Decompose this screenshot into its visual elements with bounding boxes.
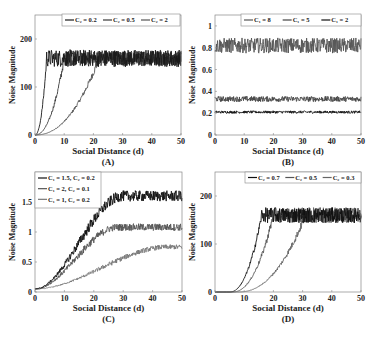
x-axis-label: Social Distance (d) — [252, 146, 324, 156]
x-tick-label: 10 — [240, 137, 248, 146]
legend-entry: C₁ = 1, C₂ = 0.2 — [48, 196, 90, 203]
x-tick-label: 20 — [269, 294, 277, 303]
y-axis-label: Noise Magnitude — [188, 46, 197, 104]
x-tick-label: 50 — [357, 137, 365, 146]
x-tick-label: 40 — [328, 294, 336, 303]
panel-label: (D) — [282, 314, 295, 324]
y-tick-label: 0.6 — [202, 66, 212, 75]
plot-area — [215, 172, 361, 292]
panel-label: (C) — [102, 314, 115, 324]
x-tick-label: 40 — [148, 137, 156, 146]
panel-B: 0102030405000.20.40.60.81Social Distance… — [188, 14, 365, 167]
x-tick-label: 50 — [357, 294, 365, 303]
x-tick-label: 10 — [60, 137, 68, 146]
y-tick-label: 100 — [20, 83, 32, 92]
panel-label: (A) — [102, 157, 115, 167]
y-axis-label: Noise Magnitude — [8, 203, 17, 261]
y-tick-label: 0.4 — [202, 87, 212, 96]
x-tick-label: 30 — [299, 294, 307, 303]
x-tick-label: 30 — [119, 294, 127, 303]
x-tick-label: 0 — [213, 294, 217, 303]
y-tick-label: 0.8 — [202, 44, 212, 53]
legend-entry: C₂ = 2 — [151, 16, 168, 23]
x-axis-label: Social Distance (d) — [72, 146, 144, 156]
legend-entry: C₂ = 0.5 — [113, 16, 135, 23]
x-tick-label: 0 — [33, 294, 37, 303]
x-tick-label: 20 — [89, 137, 97, 146]
legend-entry: C₁ = 2, C₂ = 0.1 — [48, 185, 90, 192]
x-tick-label: 10 — [60, 294, 68, 303]
x-axis-label: Social Distance (d) — [252, 303, 324, 313]
panel-D: 010203040500100200Social Distance (d)Noi… — [188, 172, 365, 324]
legend: C₂ = 0.2C₂ = 0.5C₂ = 2 — [62, 14, 180, 26]
x-tick-label: 0 — [33, 137, 37, 146]
x-tick-label: 50 — [178, 294, 186, 303]
legend-entry: C₂ = 0.5 — [295, 174, 317, 181]
y-tick-label: 1 — [208, 22, 212, 31]
y-tick-label: 0 — [28, 131, 32, 140]
x-tick-label: 50 — [177, 137, 185, 146]
legend-entry: C₂ = 0.7 — [258, 174, 280, 181]
series-line — [35, 50, 181, 135]
x-tick-label: 40 — [149, 294, 157, 303]
x-tick-label: 40 — [328, 137, 336, 146]
x-tick-label: 20 — [90, 294, 98, 303]
y-axis-label: Noise Magnitude — [188, 203, 197, 261]
y-tick-label: 200 — [20, 35, 32, 44]
y-tick-label: 0.2 — [202, 109, 212, 118]
series-line — [215, 111, 361, 114]
y-tick-label: 1 — [28, 228, 32, 237]
legend-entry: C₂ = 0.3 — [333, 174, 355, 181]
legend: C₂ = 0.7C₂ = 0.5C₂ = 0.3 — [245, 172, 361, 183]
y-tick-label: 0 — [28, 288, 32, 297]
y-tick-label: 0 — [208, 131, 212, 140]
x-tick-label: 30 — [119, 137, 127, 146]
plot-area — [35, 15, 181, 135]
x-tick-label: 10 — [240, 294, 248, 303]
legend: C₁ = 8C₁ = 5C₁ = 2 — [241, 14, 361, 26]
panel-label: (B) — [282, 157, 294, 167]
x-axis-label: Social Distance (d) — [73, 303, 145, 313]
legend-entry: C₁ = 5 — [293, 16, 311, 23]
legend-entry: C₁ = 2 — [331, 16, 348, 23]
y-tick-label: 1.5 — [22, 198, 32, 207]
series-line — [215, 96, 361, 101]
legend-entry: C₁ = 8 — [254, 16, 272, 23]
legend-entry: C₁ = 1.5, C₂ = 0.2 — [48, 174, 95, 181]
figure-canvas: 010203040500100200Social Distance (d)Noi… — [0, 0, 378, 338]
legend-entry: C₂ = 0.2 — [75, 16, 97, 23]
y-tick-label: 200 — [200, 192, 212, 201]
y-axis-label: Noise Magnitude — [8, 46, 17, 104]
series-line — [215, 38, 361, 53]
x-tick-label: 30 — [299, 137, 307, 146]
x-tick-label: 0 — [213, 137, 217, 146]
series-line — [35, 224, 182, 289]
y-tick-label: 100 — [200, 240, 212, 249]
x-tick-label: 20 — [269, 137, 277, 146]
panel-A: 010203040500100200Social Distance (d)Noi… — [8, 14, 185, 167]
panel-C: 0102030405000.511.5Social Distance (d)No… — [8, 172, 186, 324]
plot-area — [215, 15, 361, 135]
legend: C₁ = 1.5, C₂ = 0.2C₁ = 2, C₂ = 0.1C₁ = 1… — [35, 172, 101, 208]
series-line — [35, 245, 182, 290]
y-tick-label: 0.5 — [22, 258, 32, 267]
y-tick-label: 0 — [208, 288, 212, 297]
